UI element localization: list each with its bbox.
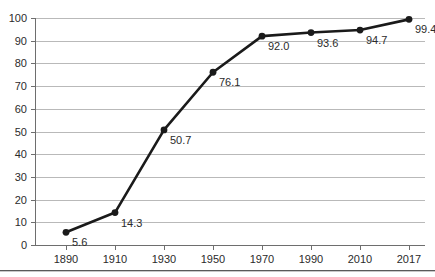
x-axis-tick-label: 1890 <box>54 253 78 265</box>
data-point-marker <box>63 229 70 236</box>
data-point-markers <box>63 16 413 236</box>
x-axis-tick-label: 2017 <box>397 253 421 265</box>
x-axis-tick-label: 1950 <box>201 253 225 265</box>
y-axis-tick-label: 90 <box>15 35 27 47</box>
data-point-marker <box>210 69 217 76</box>
data-point-label: 94.7 <box>366 34 387 46</box>
data-point-label: 14.3 <box>121 217 142 229</box>
y-axis-tick-label: 70 <box>15 80 27 92</box>
data-point-label: 92.0 <box>268 40 289 52</box>
data-point-label: 93.6 <box>317 37 338 49</box>
footer-rule <box>0 270 435 272</box>
y-axis-tick-label: 30 <box>15 171 27 183</box>
data-point-label: 5.6 <box>72 236 87 248</box>
x-axis <box>35 245 425 250</box>
x-axis-tick-label: 1990 <box>299 253 323 265</box>
y-axis-tick-label: 10 <box>15 216 27 228</box>
x-axis-tick-label: 1930 <box>152 253 176 265</box>
y-axis <box>31 18 36 246</box>
y-axis-tick-label: 20 <box>15 194 27 206</box>
y-axis-tick-label: 0 <box>21 239 27 251</box>
x-axis-tick-label: 2010 <box>348 253 372 265</box>
data-point-marker <box>308 29 315 36</box>
chart-canvas: 0102030405060708090100 18901910193019501… <box>0 0 435 277</box>
x-axis-tick-label: 1970 <box>250 253 274 265</box>
data-point-label: 99.4 <box>415 23 435 35</box>
y-axis-tick-label: 80 <box>15 57 27 69</box>
data-point-label: 50.7 <box>170 134 191 146</box>
gridlines <box>35 19 425 246</box>
y-axis-tick-label: 50 <box>15 126 27 138</box>
y-axis-tick-labels: 0102030405060708090100 <box>9 12 27 251</box>
data-point-marker <box>161 127 168 134</box>
line-chart: 0102030405060708090100 18901910193019501… <box>0 0 435 277</box>
data-point-marker <box>112 209 119 216</box>
data-point-marker <box>259 33 266 40</box>
y-axis-tick-label: 60 <box>15 103 27 115</box>
data-point-label: 76.1 <box>219 76 240 88</box>
data-point-marker <box>357 27 364 34</box>
y-axis-tick-label: 100 <box>9 12 27 24</box>
data-point-marker <box>406 16 413 23</box>
x-axis-tick-labels: 18901910193019501970199020102017 <box>54 253 421 265</box>
x-axis-tick-label: 1910 <box>103 253 127 265</box>
data-point-labels: 5.614.350.776.192.093.694.799.4 <box>72 23 435 248</box>
y-axis-tick-label: 40 <box>15 148 27 160</box>
